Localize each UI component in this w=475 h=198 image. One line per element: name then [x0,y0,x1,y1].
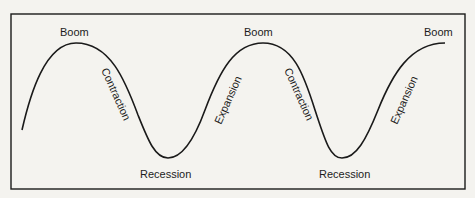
contraction-label-1: Contraction [99,66,133,122]
recession-label-1: Recession [140,168,191,180]
recession-label-2: Recession [319,168,370,180]
business-cycle-diagram: Boom Boom Boom Contraction Contraction E… [0,0,475,198]
contraction-label-2: Contraction [282,66,316,122]
boom-label-3: Boom [424,26,453,38]
boom-label-1: Boom [60,26,89,38]
boom-label-2: Boom [244,26,273,38]
expansion-label-2: Expansion [388,74,420,126]
